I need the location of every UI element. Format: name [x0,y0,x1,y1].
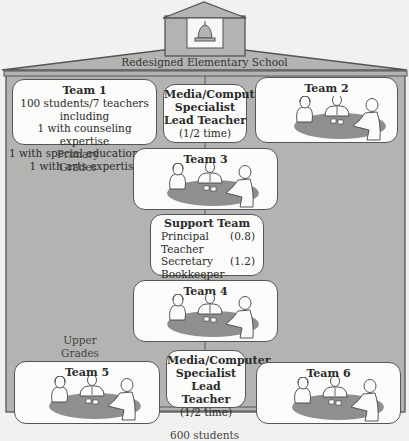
media-specialist-bottom-box: Media/Computer Specialist Lead Teacher (… [166,350,246,408]
media-bottom-line: Specialist [167,367,245,380]
team-2-title: Team 2 [256,82,397,95]
team-meeting-illustration [158,294,268,340]
team-meeting-illustration [40,376,150,422]
school-name: Redesigned Elementary School [0,56,409,68]
upper-grades-label: UpperGrades [50,334,110,360]
media-top-line: Lead Teacher [164,114,246,127]
media-top-line: Media/Computer [164,88,246,101]
team-1-title: Team 1 [13,84,156,97]
student-count-footer: 600 students [0,429,409,441]
team-meeting-illustration [158,163,268,209]
media-specialist-top-box: Media/Computer Specialist Lead Teacher (… [163,84,247,143]
team-1-line: 100 students/7 teachers including [13,97,156,122]
support-team-box: Support Team Principal Teacher(0.8) Secr… [150,214,264,276]
support-row: Principal Teacher(0.8) [161,230,263,255]
team-1-line: 1 with counseling expertise [13,122,156,147]
team-1-box: Team 1 100 students/7 teachers including… [12,79,157,145]
team-meeting-illustration [283,377,393,423]
primary-grades-label: PrimaryGrades [48,148,108,174]
media-bottom-line: Lead Teacher [167,380,245,406]
media-bottom-line: Media/Computer [167,354,245,367]
team-meeting-illustration [285,96,395,142]
support-row: Secretary(1.2) [161,255,263,268]
media-bottom-note: (1/2 time) [167,406,245,419]
media-top-line: Specialist [164,101,246,114]
support-team-title: Support Team [151,217,263,230]
media-top-note: (1/2 time) [164,127,246,140]
support-row: Bookkeeper [161,268,263,281]
